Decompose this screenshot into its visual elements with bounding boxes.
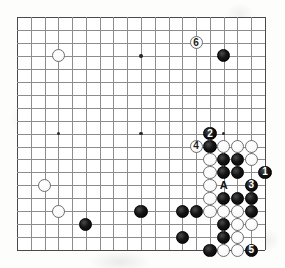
white-stone[interactable] (203, 166, 216, 179)
white-stone[interactable] (203, 192, 216, 205)
black-stone[interactable] (176, 205, 189, 218)
black-stone[interactable] (203, 244, 216, 257)
white-stone[interactable] (203, 153, 216, 166)
white-stone[interactable] (217, 244, 230, 257)
black-stone[interactable] (176, 231, 189, 244)
white-stone[interactable] (217, 140, 230, 153)
white-stone[interactable] (245, 218, 258, 231)
white-stone[interactable] (231, 140, 244, 153)
white-stone[interactable] (190, 140, 203, 153)
black-stone[interactable] (217, 218, 230, 231)
black-stone[interactable] (258, 166, 271, 179)
white-stone[interactable] (231, 205, 244, 218)
grid-line-vertical (265, 17, 266, 250)
black-stone[interactable] (231, 166, 244, 179)
black-stone[interactable] (245, 192, 258, 205)
star-point (222, 132, 225, 135)
black-stone[interactable] (203, 140, 216, 153)
white-stone[interactable] (231, 244, 244, 257)
black-stone[interactable] (217, 166, 230, 179)
black-stone[interactable] (79, 218, 92, 231)
white-stone[interactable] (52, 205, 65, 218)
white-stone[interactable] (203, 205, 216, 218)
black-stone[interactable] (134, 205, 147, 218)
black-stone[interactable] (217, 231, 230, 244)
grid-line-vertical (155, 17, 156, 250)
go-board-surface[interactable]: 624135A (17, 17, 265, 250)
star-point (57, 132, 60, 135)
white-stone[interactable] (217, 205, 230, 218)
white-stone[interactable] (38, 179, 51, 192)
black-stone[interactable] (217, 153, 230, 166)
white-stone[interactable] (245, 140, 258, 153)
black-stone[interactable] (245, 179, 258, 192)
white-stone[interactable] (245, 153, 258, 166)
grid-line-horizontal (17, 185, 265, 186)
grid-line-vertical (169, 17, 170, 250)
black-stone[interactable] (190, 205, 203, 218)
white-stone[interactable] (190, 36, 203, 49)
black-stone[interactable] (245, 205, 258, 218)
star-point (139, 54, 142, 57)
white-stone[interactable] (203, 179, 216, 192)
black-stone[interactable] (245, 244, 258, 257)
white-stone[interactable] (231, 218, 244, 231)
white-stone[interactable] (231, 231, 244, 244)
black-stone[interactable] (203, 127, 216, 140)
star-point (139, 132, 142, 135)
white-stone[interactable] (52, 49, 65, 62)
black-stone[interactable] (231, 153, 244, 166)
go-board-diagram: 624135A (0, 0, 285, 268)
black-stone[interactable] (231, 192, 244, 205)
black-stone[interactable] (217, 49, 230, 62)
black-stone[interactable] (217, 192, 230, 205)
